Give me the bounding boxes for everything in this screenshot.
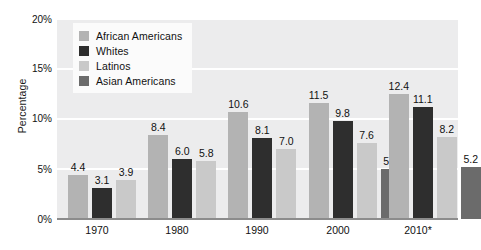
bar[interactable]: [68, 175, 88, 219]
bar[interactable]: [389, 94, 409, 219]
legend-swatch-icon: [79, 31, 89, 41]
bar-value-label: 3.1: [95, 174, 110, 186]
bar-value-label: 11.1: [413, 93, 433, 105]
bar-wrapper: 7.6: [357, 18, 377, 219]
bar-value-label: 5.8: [199, 147, 214, 159]
legend-item[interactable]: Asian Americans: [79, 73, 182, 88]
bar[interactable]: [413, 107, 433, 219]
bar-value-label: 7.6: [359, 129, 374, 141]
x-axis-tick-labels: 1970 1980 1990 2000 2010*: [57, 224, 458, 246]
x-tick-label-1970: 1970: [85, 224, 108, 236]
legend-item[interactable]: Latinos: [79, 58, 182, 73]
bar-value-label: 7.0: [279, 135, 294, 147]
legend-swatch-icon: [79, 61, 89, 71]
y-tick-label-5: 5%: [18, 164, 52, 175]
y-tick-label-0: 0%: [18, 214, 52, 225]
bar[interactable]: [116, 180, 136, 219]
x-tick-label-1990: 1990: [245, 224, 268, 236]
legend-item[interactable]: African Americans: [79, 28, 182, 43]
y-tick-label-15: 15%: [18, 63, 52, 74]
bar[interactable]: [333, 121, 353, 219]
bar[interactable]: [92, 188, 112, 219]
bar-value-label: 5.2: [463, 153, 478, 165]
x-tick-label-1980: 1980: [165, 224, 188, 236]
bar-wrapper: 5.2: [461, 18, 481, 219]
bar-wrapper: 8.1: [252, 18, 272, 219]
bar-value-label: 10.6: [228, 98, 248, 110]
x-axis-line: [57, 218, 458, 220]
bar-group: 10.68.17.0: [228, 18, 320, 219]
y-tick-label-20: 20%: [18, 14, 52, 25]
legend-item[interactable]: Whites: [79, 43, 182, 58]
bar-value-label: 8.1: [255, 124, 270, 136]
bar-group: 11.59.87.65.0: [309, 18, 401, 219]
bar-wrapper: 7.0: [276, 18, 296, 219]
bar-value-label: 6.0: [175, 145, 190, 157]
y-axis-tick-labels: 0% 5% 10% 15% 20%: [0, 0, 52, 250]
bar[interactable]: [357, 143, 377, 219]
bar[interactable]: [309, 103, 329, 219]
bar[interactable]: [196, 161, 216, 219]
x-tick-label-2010: 2010*: [404, 224, 431, 236]
bar-wrapper: 8.2: [437, 18, 457, 219]
legend-swatch-icon: [79, 46, 89, 56]
bar-value-label: 8.4: [151, 121, 166, 133]
bar-value-label: 12.4: [389, 80, 409, 92]
bar-value-label: 9.8: [335, 107, 350, 119]
x-tick-label-2000: 2000: [326, 224, 349, 236]
bar[interactable]: [276, 149, 296, 219]
legend-swatch-icon: [79, 76, 89, 86]
legend-item-label: African Americans: [96, 30, 182, 42]
bar[interactable]: [437, 137, 457, 219]
legend-item-label: Asian Americans: [96, 75, 176, 87]
bar[interactable]: [148, 135, 168, 219]
chart-legend: African AmericansWhitesLatinosAsian Amer…: [73, 23, 192, 93]
bar-wrapper: 10.6: [228, 18, 248, 219]
bar-wrapper: 9.8: [333, 18, 353, 219]
bar-wrapper: 11.5: [309, 18, 329, 219]
bar[interactable]: [461, 167, 481, 219]
bar-group: 12.411.18.25.2: [389, 18, 481, 219]
bar-wrapper: 5.8: [196, 18, 216, 219]
bar-wrapper: 12.4: [389, 18, 409, 219]
bar-wrapper: 11.1: [413, 18, 433, 219]
bar-value-label: 4.4: [71, 161, 86, 173]
legend-item-label: Whites: [96, 45, 129, 57]
legend-item-label: Latinos: [96, 60, 131, 72]
bar-value-label: 3.9: [119, 166, 134, 178]
y-tick-label-10: 10%: [18, 113, 52, 124]
bar-value-label: 8.2: [439, 123, 454, 135]
bar[interactable]: [228, 112, 248, 219]
bar-value-label: 11.5: [309, 89, 329, 101]
bar[interactable]: [252, 138, 272, 219]
bar[interactable]: [172, 159, 192, 219]
